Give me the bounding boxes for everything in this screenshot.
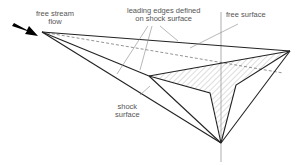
leader-leading-edge-3	[160, 26, 178, 41]
leader-shock	[140, 86, 150, 95]
label-free-surface: free surface	[226, 11, 266, 19]
label-shock-line2: surface	[115, 111, 140, 119]
leader-free-surface	[190, 24, 238, 48]
label-leading-edges: leading edges defined on shock surface	[127, 7, 200, 23]
flow-arrow-icon	[12, 23, 38, 36]
body-edges	[42, 32, 290, 143]
top-edge	[42, 32, 290, 51]
label-leading-edges-line2: on shock surface	[127, 15, 200, 23]
leader-leading-edge-1	[117, 26, 148, 74]
dashed-centerline	[42, 32, 283, 73]
label-shock-surface: shock surface	[115, 103, 140, 119]
label-free-surface-text: free surface	[226, 11, 266, 19]
label-free-stream: free stream flow	[36, 10, 74, 26]
label-free-stream-line2: flow	[36, 18, 74, 26]
leader-leading-edge-2	[140, 26, 152, 70]
